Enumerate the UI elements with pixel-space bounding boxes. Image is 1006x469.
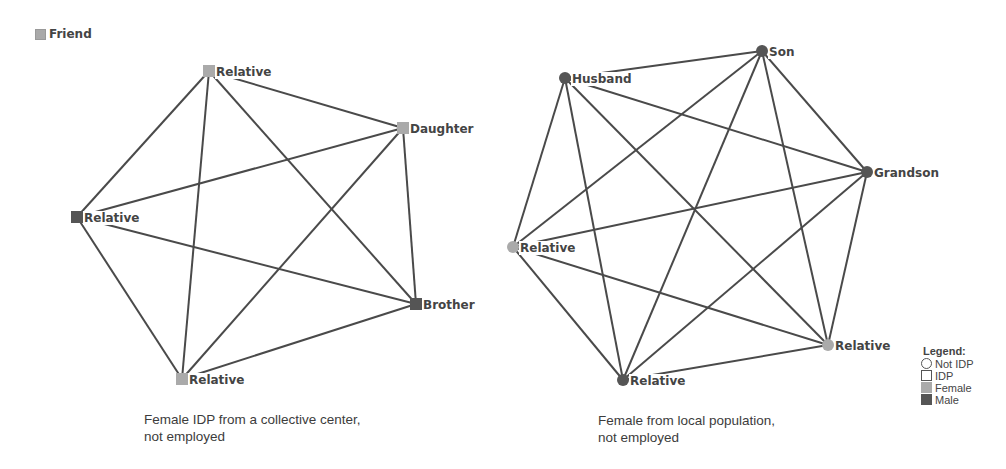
legend: Legend: Not IDP IDP Female Male	[921, 345, 974, 406]
node-label: Relative	[84, 211, 139, 225]
male-square-node-icon	[71, 211, 83, 223]
friend-legend: Friend	[35, 27, 92, 41]
network-edge	[77, 128, 403, 217]
legend-label-female: Female	[935, 382, 972, 394]
network-edge	[513, 78, 565, 247]
female-square-node-icon	[176, 373, 188, 385]
node-label: Relative	[189, 373, 244, 387]
female-circle-node-icon	[507, 241, 519, 253]
friend-square-icon	[35, 29, 46, 40]
nodes-layer	[71, 45, 873, 386]
network-edge	[623, 51, 762, 380]
network-edge	[182, 71, 209, 379]
left-caption-line1: Female IDP from a collective center,	[144, 411, 361, 428]
node-label: Relative	[216, 65, 271, 79]
male-square-icon	[921, 394, 932, 405]
legend-label-male: Male	[935, 394, 959, 406]
network-edge	[828, 172, 867, 345]
node-label: Relative	[835, 339, 890, 353]
friend-legend-label: Friend	[49, 27, 92, 41]
network-edge	[403, 128, 416, 304]
legend-item-idp: IDP	[921, 370, 974, 381]
edges-layer	[77, 51, 867, 380]
female-square-node-icon	[203, 65, 215, 77]
node-label: Husband	[572, 72, 632, 86]
network-edge	[513, 247, 623, 380]
node-label: Relative	[520, 241, 575, 255]
network-edge	[762, 51, 867, 172]
male-circle-node-icon	[756, 45, 768, 57]
square-outline-icon	[921, 370, 932, 381]
node-label: Grandson	[874, 166, 939, 180]
left-caption-line2: not employed	[144, 428, 361, 445]
circle-outline-icon	[921, 358, 932, 369]
left-network-caption: Female IDP from a collective center, not…	[144, 411, 361, 445]
female-square-icon	[921, 382, 932, 393]
node-label: Daughter	[410, 122, 474, 136]
node-label: Relative	[630, 374, 685, 388]
female-circle-node-icon	[822, 339, 834, 351]
legend-item-not-idp: Not IDP	[921, 358, 974, 369]
node-label: Son	[769, 45, 794, 59]
network-edge	[762, 51, 828, 345]
network-edge	[209, 71, 416, 304]
legend-title: Legend:	[923, 345, 974, 357]
network-edge	[182, 304, 416, 379]
network-edge	[77, 71, 209, 217]
network-edge	[209, 71, 403, 128]
network-edge	[77, 217, 182, 379]
labels-layer: RelativeDaughterRelativeBrotherRelativeS…	[83, 45, 940, 388]
legend-label-idp: IDP	[935, 370, 953, 382]
male-circle-node-icon	[617, 374, 629, 386]
network-diagram: RelativeDaughterRelativeBrotherRelativeS…	[0, 0, 1006, 469]
male-circle-node-icon	[861, 166, 873, 178]
right-caption-line2: not employed	[598, 429, 775, 446]
network-edge	[77, 217, 416, 304]
right-network-caption: Female from local population, not employ…	[598, 412, 775, 446]
legend-item-male: Male	[921, 394, 974, 405]
right-caption-line1: Female from local population,	[598, 412, 775, 429]
network-edge	[513, 172, 867, 247]
legend-item-female: Female	[921, 382, 974, 393]
network-edge	[513, 51, 762, 247]
node-label: Brother	[423, 298, 475, 312]
male-square-node-icon	[410, 298, 422, 310]
legend-label-not-idp: Not IDP	[935, 358, 974, 370]
female-square-node-icon	[397, 122, 409, 134]
male-circle-node-icon	[559, 72, 571, 84]
